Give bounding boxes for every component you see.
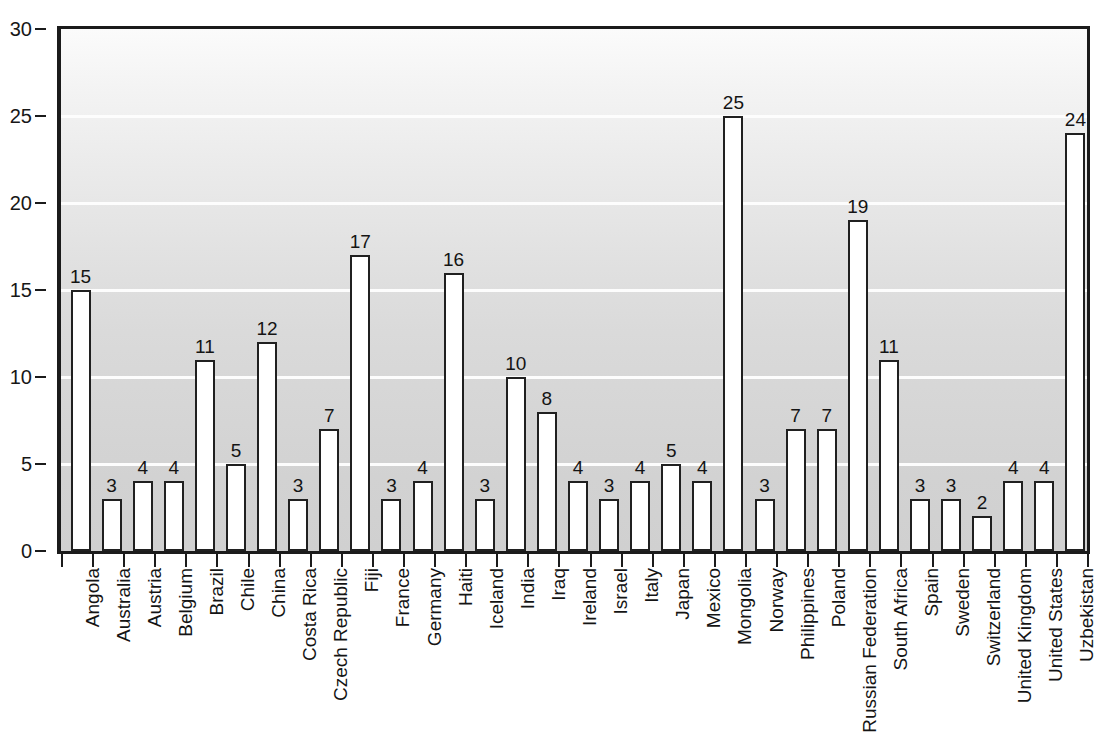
bar-value-label: 3 — [604, 476, 615, 495]
x-axis-tick-mark — [932, 554, 934, 567]
bar[interactable] — [972, 516, 992, 551]
bar-value-label: 5 — [666, 441, 677, 460]
bar[interactable] — [164, 481, 184, 551]
x-axis-tick-mark — [714, 554, 716, 567]
bar-group: 25 — [718, 29, 749, 551]
bar[interactable] — [1003, 481, 1023, 551]
bar[interactable] — [723, 116, 743, 551]
x-axis-category-label-text: Japan — [673, 568, 692, 620]
bar[interactable] — [475, 499, 495, 551]
bar-value-label: 19 — [847, 197, 868, 216]
x-axis-category-label: Australia — [108, 568, 127, 642]
x-axis-category-label-text: Italy — [642, 568, 661, 603]
bar[interactable] — [71, 290, 91, 551]
y-axis-tick-label: 20 — [10, 193, 32, 213]
bar[interactable] — [786, 429, 806, 551]
y-axis-tick-mark — [35, 376, 46, 378]
bar-value-label: 4 — [697, 458, 708, 477]
x-axis-category-label: Philippines — [792, 568, 811, 660]
bar[interactable] — [350, 255, 370, 551]
bar[interactable] — [319, 429, 339, 551]
bar-value-label: 7 — [324, 406, 335, 425]
bar[interactable] — [195, 360, 215, 551]
bar-group: 16 — [438, 29, 469, 551]
x-axis-category-label-text: Angola — [83, 568, 102, 627]
bar[interactable] — [1034, 481, 1054, 551]
x-axis-category-label: Angola — [77, 568, 96, 627]
bar-value-label: 11 — [879, 337, 899, 356]
bar[interactable] — [537, 412, 557, 551]
bar[interactable] — [506, 377, 526, 551]
x-axis-category-label-text: United Kingdom — [1015, 568, 1034, 703]
bar[interactable] — [444, 273, 464, 551]
bar-group: 11 — [189, 29, 220, 551]
bar-value-label: 4 — [635, 458, 646, 477]
bar[interactable] — [848, 220, 868, 551]
x-axis-category-label-text: Chile — [238, 568, 257, 611]
bar[interactable] — [413, 481, 433, 551]
x-axis-tick-mark — [248, 554, 250, 567]
x-axis-category-label: South Africa — [885, 568, 904, 670]
x-axis-category-label-text: United States — [1046, 568, 1065, 682]
bar-value-label: 3 — [293, 476, 304, 495]
x-axis-tick-mark — [745, 554, 747, 567]
bar-group: 10 — [500, 29, 531, 551]
bar[interactable] — [381, 499, 401, 551]
bar-group: 24 — [1060, 29, 1090, 551]
bar-value-label: 10 — [505, 354, 526, 373]
x-axis-category-label-text: Austria — [145, 568, 164, 627]
bar[interactable] — [661, 464, 681, 551]
bar-value-label: 3 — [106, 476, 117, 495]
bar[interactable] — [133, 481, 153, 551]
bar[interactable] — [226, 464, 246, 551]
bar-group: 3 — [376, 29, 407, 551]
x-axis-category-label: Fiji — [356, 568, 375, 592]
bar-group: 4 — [998, 29, 1029, 551]
x-axis-tick-mark — [154, 554, 156, 567]
x-axis-category-label: Chile — [232, 568, 251, 611]
bar-group: 4 — [1029, 29, 1060, 551]
x-axis-category-label: Iraq — [543, 568, 562, 601]
bar[interactable] — [1065, 133, 1085, 551]
bar-value-label: 3 — [946, 476, 957, 495]
bar[interactable] — [102, 499, 122, 551]
bar[interactable] — [755, 499, 775, 551]
bar[interactable] — [941, 499, 961, 551]
x-axis-tick-mark — [558, 554, 560, 567]
bar-value-label: 4 — [137, 458, 148, 477]
bar[interactable] — [692, 481, 712, 551]
x-axis-category-label-text: Spain — [922, 568, 941, 617]
x-axis-tick-mark — [496, 554, 498, 567]
bar[interactable] — [599, 499, 619, 551]
bar-group: 8 — [531, 29, 562, 551]
x-axis-tick-mark — [185, 554, 187, 567]
bar-value-label: 2 — [977, 493, 988, 512]
x-axis-category-label-text: Sweden — [953, 568, 972, 637]
x-axis-tick-mark — [527, 554, 529, 567]
bar[interactable] — [257, 342, 277, 551]
x-axis-category-label-text: Costa Rica — [300, 568, 319, 661]
x-axis-category-label: Ireland — [574, 568, 593, 626]
x-axis-tick-mark — [776, 554, 778, 567]
bar[interactable] — [630, 481, 650, 551]
x-axis-category-label: Sweden — [947, 568, 966, 637]
bar[interactable] — [817, 429, 837, 551]
x-axis-ticks — [57, 554, 1090, 568]
x-axis-tick-mark — [434, 554, 436, 567]
x-axis-category-label-text: Norway — [767, 568, 786, 632]
y-axis-tick-label: 30 — [10, 19, 32, 39]
bar[interactable] — [879, 360, 899, 551]
x-axis-tick-mark — [994, 554, 996, 567]
x-axis-category-label-text: China — [269, 568, 288, 618]
bar-group: 3 — [283, 29, 314, 551]
bar[interactable] — [910, 499, 930, 551]
bar[interactable] — [568, 481, 588, 551]
bar-group: 7 — [314, 29, 345, 551]
bar[interactable] — [288, 499, 308, 551]
bar-group: 4 — [687, 29, 718, 551]
x-axis-category-label-text: Brazil — [207, 568, 226, 616]
y-axis-tick-label: 10 — [10, 367, 32, 387]
y-axis-tick-label: 25 — [10, 106, 32, 126]
x-axis-category-label-text: Czech Republic — [331, 568, 350, 701]
